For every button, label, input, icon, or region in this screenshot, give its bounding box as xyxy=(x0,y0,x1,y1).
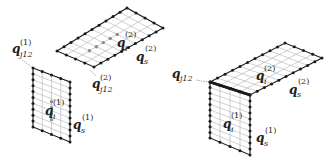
svg-text:(2): (2) xyxy=(125,30,136,39)
svg-text:(2): (2) xyxy=(264,64,275,73)
svg-text:(1): (1) xyxy=(82,113,93,122)
svg-text:j12: j12 xyxy=(18,50,33,59)
svg-text:(2): (2) xyxy=(100,73,111,82)
svg-text:s: s xyxy=(297,90,301,99)
svg-text:i: i xyxy=(125,44,128,53)
svg-text:i: i xyxy=(264,77,267,86)
svg-text:(1): (1) xyxy=(20,38,31,47)
svg-text:(1): (1) xyxy=(231,111,242,120)
svg-text:j12: j12 xyxy=(98,85,113,94)
svg-text:i: i xyxy=(53,112,56,121)
svg-text:(2): (2) xyxy=(298,77,309,86)
leader-arrow-0 xyxy=(22,60,32,67)
label-q-i-2: q i (2) xyxy=(117,30,136,53)
svg-text:s: s xyxy=(81,126,85,135)
leader-arrow-2 xyxy=(196,80,208,82)
svg-text:(2): (2) xyxy=(145,44,156,53)
label-right-q-s-2: q s (2) xyxy=(289,77,309,99)
label-q-i-1: q i (1) xyxy=(45,98,64,121)
svg-text:i: i xyxy=(231,125,234,134)
svg-text:j12: j12 xyxy=(178,74,193,83)
finite-element-subdomain-diagram: q j12 (1) q i (2) q s (2) q j12 (2) q i … xyxy=(0,0,335,162)
leader-arrow-1 xyxy=(90,70,96,76)
svg-text:(1): (1) xyxy=(53,98,64,107)
label-q-j12: q j12 xyxy=(172,67,193,83)
svg-text:s: s xyxy=(264,139,268,148)
label-right-q-s-1: q s (1) xyxy=(256,126,276,148)
label-q-s-2: q s (2) xyxy=(136,44,156,66)
svg-text:s: s xyxy=(144,57,148,66)
label-right-q-i-1: q i (1) xyxy=(223,111,242,134)
label-q-s-1: q s (1) xyxy=(73,113,93,135)
left-top-panel xyxy=(56,7,165,69)
svg-text:(1): (1) xyxy=(265,126,276,135)
label-q-j12-2: q j12 (2) xyxy=(92,73,113,94)
label-q-j12-1: q j12 (1) xyxy=(12,38,33,59)
